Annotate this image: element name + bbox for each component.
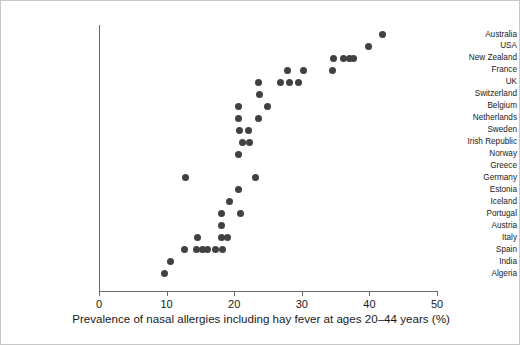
y-axis-category-label: Norway [425, 150, 520, 158]
x-axis-tick-label: 50 [417, 297, 457, 311]
x-axis-tick-label: 0 [79, 297, 119, 311]
data-point [286, 79, 293, 86]
y-axis-category-label: Belgium [425, 102, 520, 110]
x-axis-title: Prevalence of nasal allergies including … [1, 312, 520, 325]
data-point [255, 115, 262, 122]
data-point [167, 258, 174, 265]
y-axis-category-label: Austria [425, 222, 520, 230]
x-axis-tick-label: 10 [147, 297, 187, 311]
data-point [204, 246, 211, 253]
y-axis-category-label: Sweden [425, 126, 520, 134]
y-axis-category-label: Portugal [425, 210, 520, 218]
x-axis-tick [167, 291, 168, 296]
data-point [246, 139, 253, 146]
y-axis-category-label: Switzerland [425, 90, 520, 98]
data-point [218, 210, 225, 217]
x-axis-tick-label: 30 [282, 297, 322, 311]
data-point [284, 67, 291, 74]
x-axis-tick [437, 291, 438, 296]
x-axis-tick [369, 291, 370, 296]
y-axis-category-label: Australia [425, 31, 520, 39]
y-axis-category-label: Algeria [425, 270, 520, 278]
data-point [181, 246, 188, 253]
figure-container: 01020304050 AustraliaUSANew ZealandFranc… [0, 0, 520, 345]
data-point [161, 270, 168, 277]
y-axis-category-label: UK [425, 78, 520, 86]
y-axis-category-label: Netherlands [425, 114, 520, 122]
y-axis-category-label: Spain [425, 246, 520, 254]
data-point [295, 79, 302, 86]
plot-area: 01020304050 AustraliaUSANew ZealandFranc… [1, 1, 520, 345]
data-point [330, 55, 337, 62]
data-point [245, 127, 252, 134]
x-axis-tick [99, 291, 100, 296]
y-axis-category-label: France [425, 66, 520, 74]
data-point [219, 246, 226, 253]
data-point [350, 55, 357, 62]
data-point [300, 67, 307, 74]
data-point [252, 174, 259, 181]
data-point [218, 222, 225, 229]
data-point [256, 91, 263, 98]
y-axis-category-label: India [425, 258, 520, 266]
y-axis-category-label: New Zealand [425, 54, 520, 62]
data-point [277, 79, 284, 86]
data-point [264, 103, 271, 110]
y-axis-category-label: Iceland [425, 198, 520, 206]
data-point [235, 186, 242, 193]
data-point [239, 139, 246, 146]
y-axis-category-label: Greece [425, 162, 520, 170]
x-axis-tick-label: 20 [214, 297, 254, 311]
data-point [194, 234, 201, 241]
data-point [212, 246, 219, 253]
y-axis-line [99, 25, 100, 291]
x-axis-tick-label: 40 [349, 297, 389, 311]
y-axis-category-label: USA [425, 42, 520, 50]
y-axis-category-label: Italy [425, 234, 520, 242]
data-point [255, 79, 262, 86]
data-point [236, 127, 243, 134]
y-axis-category-label: Germany [425, 174, 520, 182]
data-point [237, 210, 244, 217]
data-point [365, 43, 372, 50]
data-point [235, 103, 242, 110]
y-axis-category-label: Irish Republic [425, 138, 520, 146]
data-point [235, 115, 242, 122]
x-axis-tick [234, 291, 235, 296]
data-point [226, 198, 233, 205]
y-axis-category-label: Estonia [425, 186, 520, 194]
data-point [182, 174, 189, 181]
data-point [379, 31, 386, 38]
x-axis-line [99, 291, 438, 292]
data-point [224, 234, 231, 241]
x-axis-tick [302, 291, 303, 296]
data-point [235, 151, 242, 158]
data-point [329, 67, 336, 74]
